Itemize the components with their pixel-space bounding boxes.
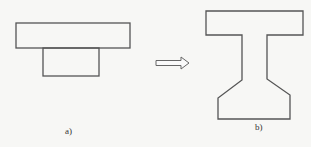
diagram-canvas	[0, 0, 311, 147]
figure-a-top-rectangle	[16, 23, 130, 48]
figure-b-i-section	[206, 11, 303, 119]
figure-a	[16, 23, 130, 76]
right-arrow-icon	[156, 57, 189, 69]
figure-b-label: b)	[255, 122, 263, 132]
figure-a-label: a)	[65, 126, 72, 136]
figure-a-bottom-rectangle	[43, 48, 99, 76]
